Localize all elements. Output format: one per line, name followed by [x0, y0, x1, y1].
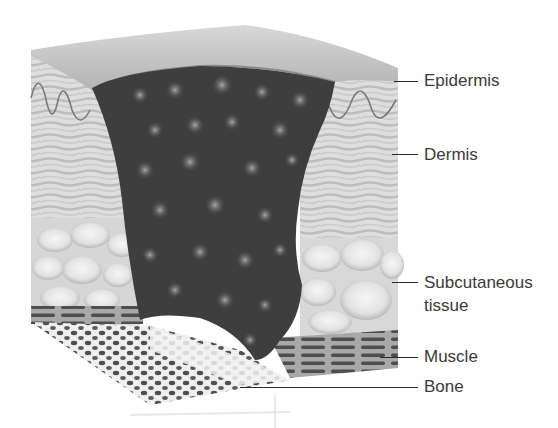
skin-wound-diagram: Epidermis Dermis Subcutaneous tissue Mus… — [0, 0, 558, 428]
subcutaneous-fat-right — [300, 238, 404, 338]
label-subcutaneous-line2: tissue — [424, 295, 468, 316]
leader-line-subcutaneous — [392, 282, 418, 283]
label-muscle: Muscle — [424, 346, 478, 367]
subcutaneous-fat-left — [31, 218, 139, 316]
label-bone: Bone — [424, 376, 464, 397]
leader-line-dermis — [392, 154, 418, 155]
muscle-left — [31, 306, 143, 324]
leader-line-bone — [240, 387, 418, 388]
label-epidermis: Epidermis — [424, 70, 500, 91]
leader-line-epidermis — [394, 81, 418, 82]
leader-line-muscle — [380, 357, 418, 358]
label-dermis: Dermis — [424, 144, 478, 165]
label-subcutaneous: Subcutaneous — [424, 272, 533, 293]
muscle-right — [270, 330, 398, 378]
